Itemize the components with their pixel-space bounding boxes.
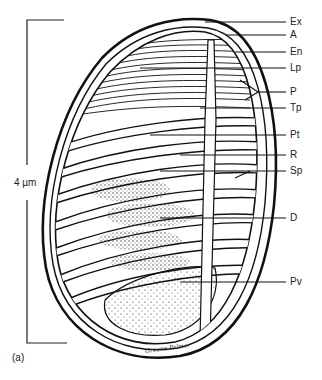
label-p: P <box>290 87 297 97</box>
panel-label: (a) <box>12 352 24 363</box>
label-a: A <box>290 30 297 40</box>
label-lp: Lp <box>290 63 301 73</box>
scale-bar-label: 4 µm <box>14 177 36 188</box>
label-d: D <box>290 213 297 223</box>
label-en: En <box>290 47 302 57</box>
label-ex: Ex <box>290 17 302 27</box>
spore-diagram <box>0 0 322 380</box>
label-pv: Pv <box>290 277 302 287</box>
label-r: R <box>290 150 297 160</box>
label-sp: Sp <box>290 166 302 176</box>
posterior-vacuole <box>104 267 216 336</box>
label-pt: Pt <box>290 130 299 140</box>
label-tp: Tp <box>290 103 302 113</box>
